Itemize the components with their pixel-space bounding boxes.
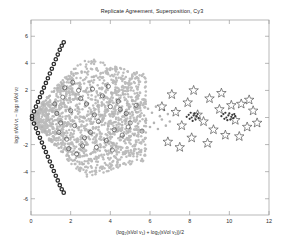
svg-text:2: 2 <box>25 87 28 93</box>
svg-text:10: 10 <box>226 218 232 224</box>
x-axis-label: (log2(sVol v1) + log2(sVol v2))/2 <box>31 229 269 236</box>
svg-text:6: 6 <box>25 33 28 39</box>
svg-text:4: 4 <box>25 60 28 66</box>
svg-text:-6: -6 <box>23 196 28 202</box>
svg-text:-2: -2 <box>23 142 28 148</box>
svg-text:0: 0 <box>30 218 33 224</box>
scatter-plot: 024681012642-2-4-6 <box>0 0 304 249</box>
chart-figure: Replicate Agreement, Superposition, Cy3 … <box>0 0 304 249</box>
svg-text:-4: -4 <box>23 169 28 175</box>
y-axis-label: log2 sVol v1 − log2 sVol v2 <box>13 55 20 175</box>
svg-text:2: 2 <box>69 218 72 224</box>
svg-text:6: 6 <box>149 218 152 224</box>
svg-text:12: 12 <box>266 218 272 224</box>
svg-text:4: 4 <box>109 218 112 224</box>
svg-text:8: 8 <box>188 218 191 224</box>
